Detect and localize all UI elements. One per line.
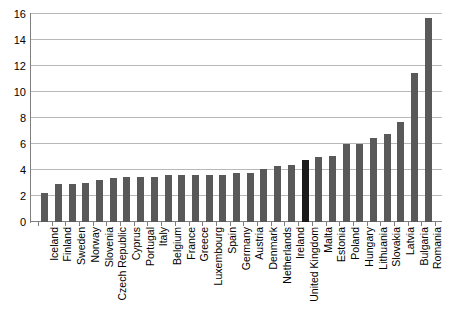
- x-tick: [421, 222, 422, 226]
- bar: [123, 177, 130, 223]
- x-axis-label: Italy: [158, 227, 169, 246]
- x-axis-label: Germany: [241, 227, 252, 270]
- bar: [397, 122, 404, 222]
- x-axis-ticks: [31, 222, 442, 226]
- bar: [260, 169, 267, 222]
- x-axis-labels: IcelandFinlandSwedenNorwaySloveniaCzech …: [31, 227, 442, 321]
- bar: [247, 173, 254, 222]
- x-axis-label: Poland: [350, 227, 361, 260]
- x-axis-label-text: Finland: [62, 227, 73, 261]
- x-axis-label: Portugal: [145, 227, 156, 266]
- x-axis-label-text: Belgium: [172, 227, 183, 265]
- x-axis-label-text: Czech Republic: [117, 227, 128, 301]
- x-axis-label: Ireland: [295, 227, 306, 259]
- x-tick: [202, 222, 203, 226]
- x-axis-label: Romania: [432, 227, 443, 269]
- x-tick: [353, 222, 354, 226]
- x-axis-label: Malta: [323, 227, 334, 253]
- bar: [82, 183, 89, 222]
- x-axis-label-text: Luxembourg: [213, 227, 224, 285]
- bar: [96, 180, 103, 222]
- x-axis-label: Finland: [62, 227, 73, 261]
- x-tick: [435, 222, 436, 226]
- x-axis-label-text: Bulgaria: [419, 227, 430, 266]
- bar: [356, 144, 363, 222]
- x-axis-label: Netherlands: [282, 227, 293, 284]
- x-axis-label-text: Slovakia: [391, 227, 402, 267]
- x-tick: [106, 222, 107, 226]
- y-tick-label: 14: [2, 35, 26, 46]
- bar: [329, 156, 336, 222]
- x-axis-label: Sweden: [76, 227, 87, 265]
- x-tick: [134, 222, 135, 226]
- bar: [315, 157, 322, 222]
- bar: [288, 165, 295, 222]
- x-tick: [408, 222, 409, 226]
- y-tick-label: 10: [2, 87, 26, 98]
- x-axis-label-text: Ireland: [295, 227, 306, 259]
- bar: [178, 175, 185, 222]
- x-tick: [79, 222, 80, 226]
- x-axis-label-text: Latvia: [405, 227, 416, 255]
- x-axis-label-text: Slovenia: [104, 227, 115, 267]
- y-axis: 0246810121416: [0, 0, 26, 321]
- bar: [233, 173, 240, 222]
- bar: [137, 177, 144, 223]
- x-tick: [38, 222, 39, 226]
- x-tick: [339, 222, 340, 226]
- x-axis-label-text: Norway: [90, 227, 101, 263]
- bar-chart: 0246810121416 IcelandFinlandSwedenNorway…: [0, 0, 450, 321]
- x-axis-label-text: Portugal: [145, 227, 156, 266]
- x-tick: [65, 222, 66, 226]
- x-axis-label-text: Germany: [241, 227, 252, 270]
- y-tick-label: 6: [2, 139, 26, 150]
- x-axis-label: Latvia: [405, 227, 416, 255]
- x-axis-label-text: Sweden: [76, 227, 87, 265]
- x-tick: [312, 222, 313, 226]
- x-axis-label: Cyprus: [131, 227, 142, 260]
- x-axis-label-text: Austria: [254, 227, 265, 260]
- x-axis-label: Iceland: [49, 227, 60, 261]
- x-axis-label: Lithuania: [378, 227, 389, 270]
- bar: [425, 18, 432, 222]
- x-tick: [284, 222, 285, 226]
- y-tick-label: 0: [2, 217, 26, 228]
- y-tick-label: 16: [2, 9, 26, 20]
- bar-highlighted: [302, 160, 309, 222]
- x-axis-label-text: United Kingdom: [309, 227, 320, 302]
- x-tick: [161, 222, 162, 226]
- y-tick-label: 12: [2, 61, 26, 72]
- bar: [110, 178, 117, 222]
- y-tick-label: 8: [2, 113, 26, 124]
- x-axis-label: Bulgaria: [419, 227, 430, 266]
- x-axis-label: Slovenia: [104, 227, 115, 267]
- x-axis-label-text: Greece: [199, 227, 210, 261]
- bar: [219, 175, 226, 222]
- x-tick: [257, 222, 258, 226]
- bar: [384, 134, 391, 222]
- x-tick: [175, 222, 176, 226]
- x-axis-label: Slovakia: [391, 227, 402, 267]
- x-axis-label-text: Lithuania: [378, 227, 389, 270]
- x-tick: [93, 222, 94, 226]
- bar-series: [31, 14, 442, 222]
- bar: [151, 177, 158, 223]
- x-axis-label: Czech Republic: [117, 227, 128, 301]
- x-axis-label: Spain: [227, 227, 238, 254]
- x-axis-label-text: Iceland: [49, 227, 60, 261]
- bar: [55, 184, 62, 222]
- bar: [411, 73, 418, 223]
- bar: [274, 166, 281, 222]
- x-axis-label: Norway: [90, 227, 101, 263]
- x-axis-label-text: Romania: [432, 227, 443, 269]
- x-axis-label-text: Italy: [158, 227, 169, 246]
- x-axis-label-text: Hungary: [364, 227, 375, 267]
- x-axis-label: France: [186, 227, 197, 260]
- x-axis-label: Hungary: [364, 227, 375, 267]
- x-tick: [52, 222, 53, 226]
- x-axis-label-text: Malta: [323, 227, 334, 253]
- bar: [41, 193, 48, 222]
- x-axis-label-text: Cyprus: [131, 227, 142, 260]
- bar: [206, 175, 213, 222]
- plot-area: [31, 14, 442, 222]
